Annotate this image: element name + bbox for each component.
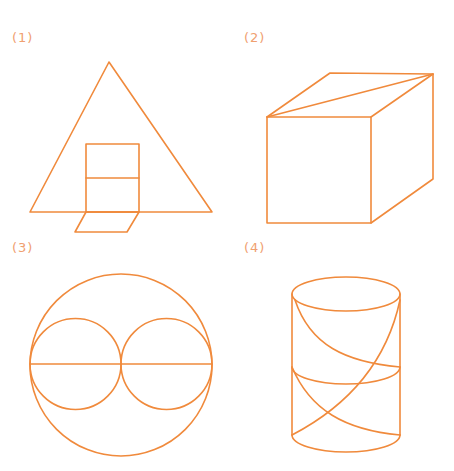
- helix-curve-lower: [292, 367, 400, 435]
- helix-curve-cross: [292, 300, 400, 435]
- helix-curve-upper: [295, 300, 400, 367]
- middle-ellipse-front: [292, 367, 400, 384]
- figure-1-triangle-house: [30, 62, 212, 232]
- figure-2-cube: [267, 73, 433, 223]
- cube-front-face: [267, 117, 371, 223]
- figure-4-cylinder: [292, 277, 400, 452]
- figure-3-circles: [30, 274, 212, 456]
- top-ellipse: [292, 277, 400, 311]
- figures-canvas: [0, 0, 454, 471]
- parallelogram: [75, 212, 139, 232]
- triangle: [30, 62, 212, 212]
- cube-top-diagonal: [267, 74, 433, 117]
- bottom-ellipse-front: [292, 435, 400, 452]
